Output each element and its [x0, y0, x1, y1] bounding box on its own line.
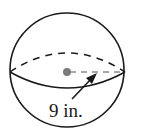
sphere-diagram: 9 in. [0, 0, 144, 129]
radius-arrow-line [72, 78, 92, 99]
center-point [63, 68, 71, 76]
radius-label: 9 in. [49, 100, 83, 121]
